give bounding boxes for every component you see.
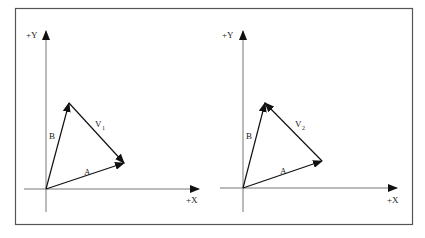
vector-a-label: A xyxy=(84,167,91,177)
panel-right: +Y +X A B V 2 xyxy=(220,30,399,212)
vector-diagram: +Y +X A B V 1 +Y +X A B V 2 xyxy=(0,0,425,238)
vector-v2-label: V xyxy=(295,119,302,129)
vector-v2 xyxy=(265,103,322,161)
vector-v1-subscript: 1 xyxy=(102,125,105,131)
vector-b xyxy=(46,103,69,189)
y-axis-label: +Y xyxy=(26,30,38,40)
vector-b xyxy=(243,103,265,188)
vector-v1 xyxy=(69,103,124,163)
vector-v2-subscript: 2 xyxy=(302,125,305,131)
vector-a-label: A xyxy=(280,166,287,176)
vector-b-label: B xyxy=(246,131,252,141)
vector-v1-label: V xyxy=(95,119,102,129)
y-axis-label: +Y xyxy=(222,30,234,40)
vector-b-label: B xyxy=(49,131,55,141)
panel-left: +Y +X A B V 1 xyxy=(24,30,199,212)
x-axis-label: +X xyxy=(186,195,198,205)
figure-frame xyxy=(16,9,413,225)
x-axis-label: +X xyxy=(387,195,399,205)
